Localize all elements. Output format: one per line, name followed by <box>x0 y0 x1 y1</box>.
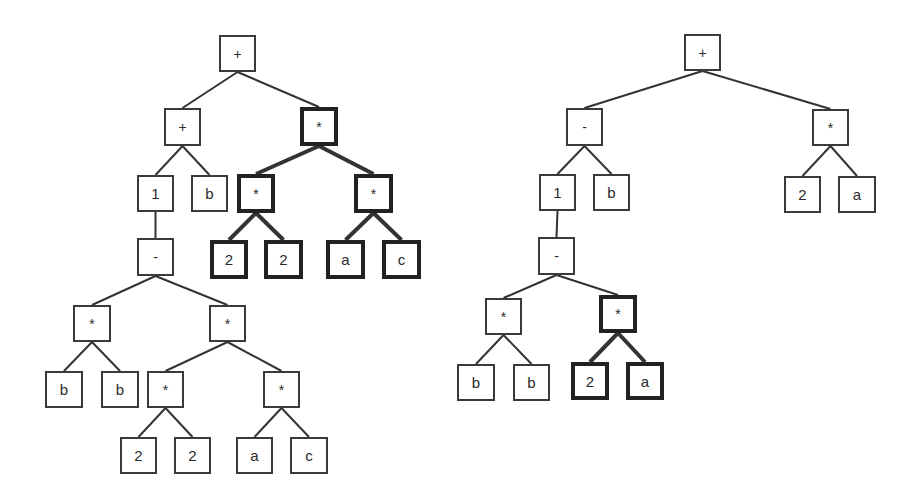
node-label: a <box>250 448 258 463</box>
tree-edge <box>557 211 558 237</box>
highlighted-tree-node: 2 <box>571 362 609 400</box>
tree-node: - <box>566 108 603 146</box>
tree-node: * <box>812 109 849 146</box>
highlighted-tree-node: a <box>326 240 365 279</box>
tree-node: * <box>263 371 300 408</box>
node-label: c <box>398 252 406 267</box>
node-label: * <box>163 383 168 397</box>
tree-edge <box>374 213 402 240</box>
node-label: c <box>305 448 313 463</box>
node-label: - <box>554 249 559 263</box>
tree-node: + <box>684 34 721 71</box>
tree-node: b <box>457 364 495 401</box>
tree-node: 1 <box>539 174 576 211</box>
tree-node: b <box>593 174 630 211</box>
tree-edge <box>92 276 156 305</box>
node-label: * <box>225 317 230 331</box>
node-label: 2 <box>586 374 594 389</box>
tree-node: * <box>209 305 246 342</box>
highlighted-tree-node: a <box>626 362 664 400</box>
tree-edge <box>585 71 703 108</box>
tree-node: - <box>538 237 575 275</box>
node-label: a <box>341 252 349 267</box>
tree-edge <box>238 72 320 107</box>
tree-node: b <box>513 364 550 401</box>
tree-edge <box>557 275 619 295</box>
tree-node: 1 <box>137 175 174 212</box>
node-label: 1 <box>553 185 561 200</box>
node-label: - <box>582 120 587 134</box>
tree-edge <box>229 213 256 240</box>
highlighted-tree-node: c <box>382 240 421 279</box>
tree-node: a <box>838 176 876 213</box>
tree-edge <box>504 335 532 364</box>
tree-edge <box>183 72 238 108</box>
node-label: 2 <box>279 252 287 267</box>
tree-node: 2 <box>174 437 211 474</box>
node-label: b <box>60 382 68 397</box>
tree-edge <box>139 408 166 437</box>
tree-edge <box>558 146 585 174</box>
tree-edge <box>282 408 310 437</box>
node-label: 2 <box>188 448 196 463</box>
tree-node: * <box>485 298 522 335</box>
node-label: b <box>472 375 480 390</box>
node-label: * <box>89 317 94 331</box>
node-label: b <box>527 375 535 390</box>
node-label: + <box>178 120 186 134</box>
node-label: b <box>205 186 213 201</box>
tree-node: * <box>73 305 111 342</box>
tree-edge <box>256 146 319 174</box>
tree-node: b <box>45 371 83 408</box>
tree-edge <box>156 146 183 175</box>
expression-tree-diagram: ++*1b**22ac-**bb**22ac +-*1b2a-**bb2a <box>0 0 915 501</box>
tree-node: - <box>137 238 174 276</box>
tree-edge <box>585 146 612 174</box>
node-label: + <box>233 47 241 61</box>
tree-node: * <box>147 371 184 408</box>
tree-edge <box>166 342 228 371</box>
highlighted-tree-node: * <box>599 295 637 333</box>
node-label: 2 <box>225 252 233 267</box>
node-label: + <box>698 46 706 60</box>
node-label: * <box>501 310 506 324</box>
tree-edge <box>590 333 618 362</box>
node-label: a <box>853 187 861 202</box>
node-label: * <box>279 383 284 397</box>
tree-edge <box>166 408 193 437</box>
tree-node: 2 <box>120 437 157 474</box>
highlighted-tree-node: 2 <box>264 240 303 279</box>
highlighted-tree-node: 2 <box>210 240 248 279</box>
node-label: * <box>316 120 321 134</box>
tree-edge <box>255 408 282 437</box>
node-label: * <box>615 307 620 321</box>
tree-edge <box>92 342 120 371</box>
tree-edge <box>703 71 831 109</box>
node-label: 2 <box>134 448 142 463</box>
tree-node: + <box>164 108 201 146</box>
highlighted-tree-node: * <box>354 174 393 213</box>
tree-edge <box>504 275 557 298</box>
node-label: 2 <box>798 187 806 202</box>
tree-edge <box>346 213 374 240</box>
tree-node: a <box>236 437 273 474</box>
node-label: b <box>607 185 615 200</box>
highlighted-tree-node: * <box>237 174 275 213</box>
node-label: * <box>371 187 376 201</box>
tree-edge <box>256 213 284 240</box>
node-label: * <box>828 121 833 135</box>
tree-node: b <box>101 371 139 408</box>
highlighted-tree-node: * <box>300 107 338 146</box>
tree-edge <box>183 146 210 175</box>
tree-node: 2 <box>784 176 821 213</box>
tree-edge <box>618 333 645 362</box>
node-label: b <box>116 382 124 397</box>
tree-edge <box>476 335 504 364</box>
tree-edge <box>156 276 228 305</box>
tree-edge <box>319 146 374 174</box>
tree-edge <box>803 146 831 176</box>
node-label: * <box>253 187 258 201</box>
tree-node: + <box>219 35 256 72</box>
node-label: 1 <box>151 186 159 201</box>
tree-node: c <box>290 437 328 474</box>
